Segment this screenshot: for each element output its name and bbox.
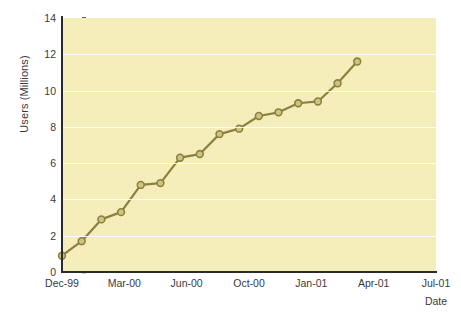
data-point-marker — [275, 109, 282, 116]
x-axis-tick-label: Jul-01 — [422, 277, 451, 289]
y-axis-tick-label: 8 — [30, 121, 56, 133]
y-axis-tick-label: 6 — [30, 157, 56, 169]
x-axis-title: Date — [425, 295, 447, 307]
data-point-marker — [354, 58, 361, 65]
gridline — [62, 54, 436, 55]
x-axis-tick-label: Dec-99 — [45, 277, 79, 289]
gridline — [62, 91, 436, 92]
y-axis-tick-label: 12 — [30, 48, 56, 60]
data-point-marker — [157, 180, 164, 187]
y-axis-tick-label: 2 — [30, 230, 56, 242]
data-point-marker — [334, 80, 341, 87]
x-axis-tick-label: Apr-01 — [358, 277, 390, 289]
y-axis-tick-labels: 02468101214 — [26, 18, 56, 272]
y-axis-tick-label: 14 — [30, 12, 56, 24]
y-axis-line — [61, 16, 63, 273]
data-point-marker — [78, 238, 85, 245]
x-axis-tick-label: Jun-00 — [171, 277, 203, 289]
x-axis-tick-label: Oct-00 — [233, 277, 265, 289]
y-axis-tick-label: 10 — [30, 85, 56, 97]
data-point-marker — [196, 151, 203, 158]
data-point-marker — [314, 98, 321, 105]
chart-figure: Users (Millions) 02468101214 Dec-99Mar-0… — [0, 0, 461, 324]
data-point-marker — [98, 216, 105, 223]
gridline — [62, 163, 436, 164]
data-point-marker — [118, 209, 125, 216]
data-point-marker — [295, 100, 302, 107]
data-point-marker — [255, 113, 262, 120]
data-point-marker — [137, 182, 144, 189]
data-series-layer — [62, 18, 436, 272]
x-axis-tick-label: Mar-00 — [108, 277, 141, 289]
y-axis-tick-label: 4 — [30, 193, 56, 205]
x-axis-tick-label: Jan-01 — [295, 277, 327, 289]
gridline — [62, 236, 436, 237]
gridline — [62, 199, 436, 200]
plot-area — [62, 18, 436, 272]
x-axis-line — [61, 271, 437, 273]
data-point-marker — [216, 131, 223, 138]
data-point-marker — [177, 154, 184, 161]
gridline — [62, 127, 436, 128]
